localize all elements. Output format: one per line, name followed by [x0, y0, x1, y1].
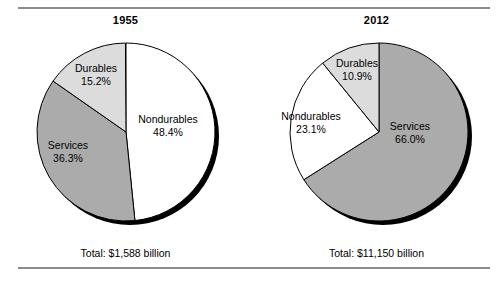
slice-label-pct: 48.4% [126, 126, 210, 139]
slice-label-name: Nondurables [281, 110, 341, 122]
slice-label-services-1955: Services 36.3% [31, 139, 105, 164]
slice-label-durables-1955: Durables 15.2% [60, 62, 132, 87]
slice-label-services-2012: Services 66.0% [372, 120, 448, 145]
slice-label-pct: 23.1% [269, 123, 353, 136]
slice-label-nondurables-1955: Nondurables 48.4% [126, 113, 210, 138]
slice-label-name: Nondurables [138, 113, 198, 125]
pie-panel-2012: 2012 Services 66.0% Nondurables 23.1% Du… [251, 0, 502, 283]
panel-title-1955: 1955 [0, 14, 251, 26]
slice-label-pct: 10.9% [321, 70, 393, 83]
slice-label-name: Durables [75, 62, 117, 74]
slice-label-nondurables-2012: Nondurables 23.1% [269, 110, 353, 135]
slice-label-pct: 36.3% [31, 152, 105, 165]
panel-title-2012: 2012 [251, 14, 502, 26]
slice-label-name: Services [48, 139, 88, 151]
panel-total-2012: Total: $11,150 billion [251, 247, 502, 259]
slice-label-pct: 15.2% [60, 75, 132, 88]
figure-canvas: 1955 Nondurables 48.4% Services 36.3% Du… [0, 0, 502, 283]
slice-label-name: Services [390, 120, 430, 132]
pie-panel-1955: 1955 Nondurables 48.4% Services 36.3% Du… [0, 0, 251, 283]
panel-total-1955: Total: $1,588 billion [0, 247, 251, 259]
slice-label-name: Durables [336, 57, 378, 69]
slice-label-durables-2012: Durables 10.9% [321, 57, 393, 82]
slice-label-pct: 66.0% [372, 133, 448, 146]
